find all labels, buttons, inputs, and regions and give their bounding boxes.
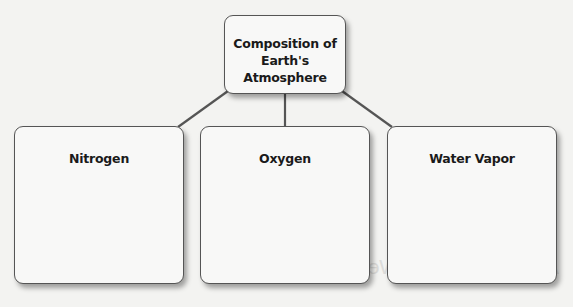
root-node: Composition of Earth's Atmosphere <box>224 15 346 94</box>
node-oxygen[interactable]: Oxygen <box>200 126 370 284</box>
node-label: Oxygen <box>201 151 369 166</box>
node-nitrogen[interactable]: Nitrogen <box>14 126 184 284</box>
connector-water-vapor <box>342 91 392 127</box>
root-node-label: Composition of Earth's Atmosphere <box>225 35 345 86</box>
root-label-line1: Composition of <box>225 35 345 52</box>
connector-nitrogen <box>178 91 228 127</box>
root-label-line2: Earth's Atmosphere <box>225 52 345 86</box>
node-label: Nitrogen <box>15 151 183 166</box>
node-label: Water Vapor <box>388 151 556 166</box>
node-water-vapor[interactable]: Water Vapor <box>387 126 557 284</box>
